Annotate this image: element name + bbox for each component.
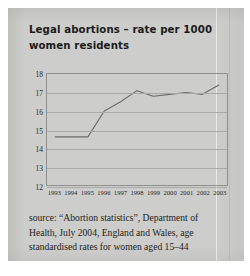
y-axis-tick-label: 17 xyxy=(36,88,44,97)
source-caption: source: “Abortion statistics”, Departmen… xyxy=(29,211,221,255)
y-axis-tick-label: 13 xyxy=(36,164,44,173)
x-axis-tick-label: 1999 xyxy=(147,189,160,196)
paper-background: Legal abortions – rate per 1000 women re… xyxy=(8,8,244,261)
plot-area: 18171615141312 xyxy=(46,73,228,186)
y-axis-tick-label: 12 xyxy=(36,183,44,192)
x-axis-tick-label: 1996 xyxy=(97,189,110,196)
gridline xyxy=(47,93,227,94)
gridline xyxy=(47,131,227,132)
gridline xyxy=(47,112,227,113)
y-axis-tick-label: 16 xyxy=(36,107,44,116)
gridline xyxy=(47,168,227,169)
gridline xyxy=(47,149,227,150)
chart-title: Legal abortions – rate per 1000 women re… xyxy=(29,22,221,54)
x-axis: 1993199419951996199719981999200020012002… xyxy=(46,187,228,201)
x-axis-tick-label: 2002 xyxy=(197,189,210,196)
y-axis-tick-label: 18 xyxy=(36,70,44,79)
x-axis-tick-label: 2000 xyxy=(163,189,176,196)
x-axis-tick-label: 1998 xyxy=(130,189,143,196)
x-axis-tick-label: 1997 xyxy=(114,189,127,196)
x-axis-tick-label: 2001 xyxy=(180,189,193,196)
y-axis-tick-label: 15 xyxy=(36,126,44,135)
x-axis-tick-label: 1995 xyxy=(81,189,94,196)
x-axis-tick-label: 2003 xyxy=(213,189,226,196)
x-axis-tick-label: 1993 xyxy=(48,189,61,196)
y-axis-tick-label: 14 xyxy=(36,145,44,154)
x-axis-tick-label: 1994 xyxy=(64,189,77,196)
line-chart: 18171615141312 1993199419951996199719981… xyxy=(24,68,238,198)
scanned-page: Legal abortions – rate per 1000 women re… xyxy=(0,0,250,276)
